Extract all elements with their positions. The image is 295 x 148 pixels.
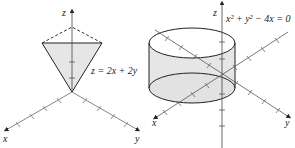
- x-axis-label: x: [2, 133, 8, 144]
- plane-equation-label: z = 2x + 2y: [90, 65, 138, 76]
- y-axis-label: y: [284, 117, 290, 128]
- z-axis-label: z: [61, 7, 66, 18]
- left-figure: z x y z = 2x + 2y: [2, 7, 140, 144]
- right-figure: z x y x² + y² − 4x = 0: [149, 3, 291, 148]
- cylinder-equation-label: x² + y² − 4x = 0: [225, 13, 291, 24]
- figure-canvas: z x y z = 2x + 2y: [0, 0, 295, 148]
- z-axis-label: z: [212, 7, 217, 18]
- x-axis: [6, 92, 72, 130]
- y-axis: [72, 92, 138, 130]
- x-axis-label: x: [151, 117, 157, 128]
- y-axis-label: y: [134, 133, 140, 144]
